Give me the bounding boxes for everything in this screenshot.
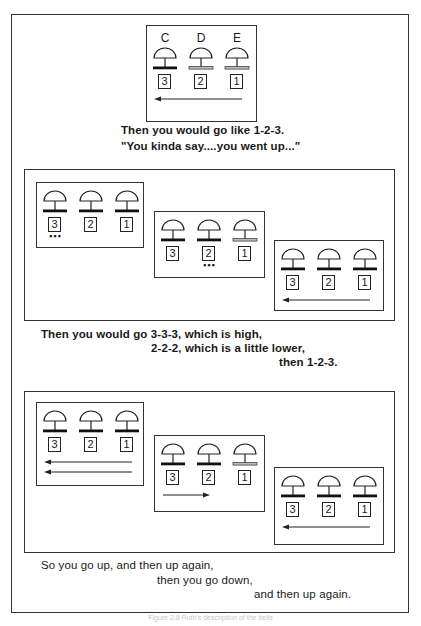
bell-number-box: 1	[358, 275, 371, 290]
bell-number-box: 2	[84, 217, 97, 232]
panel1-text-line-1: Then you would go like 1-2-3.	[121, 124, 284, 136]
bell-icon	[78, 410, 104, 436]
bell-icon	[232, 443, 258, 469]
bell-number-box: 2	[202, 246, 215, 261]
bell-icon	[316, 475, 342, 501]
panel3-text-line-2: then you go down,	[157, 574, 253, 586]
bell-number-box: 1	[230, 74, 243, 89]
repeat-dots-icon: ▪▪▪	[49, 233, 62, 239]
panel1-text-line-2: "You kinda say....you went up..."	[121, 140, 300, 152]
bell-number-box: 2	[202, 470, 215, 485]
bell-icon	[42, 190, 68, 216]
bell-number-box: 3	[48, 437, 61, 452]
bell-number-box: 1	[120, 437, 133, 452]
arrow-left-icon	[43, 458, 134, 466]
bell-icon	[316, 248, 342, 274]
bell-icon	[232, 219, 258, 245]
panel3-text-line-3: and then up again.	[254, 588, 351, 600]
bell-icon	[42, 410, 68, 436]
bell-icon	[160, 443, 186, 469]
bell-icon	[188, 47, 214, 73]
bell-icon	[280, 475, 306, 501]
arrow-left-icon	[281, 296, 372, 304]
panel2-text-line-3: then 1-2-3.	[279, 356, 338, 368]
bell-icon	[280, 248, 306, 274]
arrow-right-icon	[161, 491, 211, 499]
bell-icon	[152, 47, 178, 73]
bell-number-box: 3	[166, 246, 179, 261]
panel2-text-line-2: 2-2-2, which is a little lower,	[151, 342, 305, 354]
bell-icon	[78, 190, 104, 216]
panel3-text-line-1: So you go up, and then up again,	[41, 559, 214, 571]
bell-icon	[352, 248, 378, 274]
bell-number-box: 2	[84, 437, 97, 452]
bell-icon	[224, 47, 250, 73]
bell-number-box: 2	[322, 275, 335, 290]
panel2-text-line-1: Then you would go 3-3-3, which is high,	[41, 328, 262, 340]
bell-number-box: 3	[48, 217, 61, 232]
arrow-left-icon	[43, 468, 134, 476]
note-label: E	[226, 31, 248, 45]
bell-icon	[160, 219, 186, 245]
repeat-dots-icon: ▪▪▪	[203, 262, 216, 268]
note-label: D	[190, 31, 212, 45]
arrow-left-icon	[281, 523, 372, 531]
bell-number-box: 3	[166, 470, 179, 485]
bell-number-box: 3	[158, 74, 171, 89]
bell-icon	[114, 410, 140, 436]
bell-number-box: 2	[194, 74, 207, 89]
bell-icon	[196, 219, 222, 245]
note-label: C	[154, 31, 176, 45]
bell-icon	[114, 190, 140, 216]
bell-number-box: 2	[322, 502, 335, 517]
bell-number-box: 1	[238, 246, 251, 261]
bell-icon	[196, 443, 222, 469]
figure-caption: Figure 2.8 Ruth's description of the bel…	[0, 614, 421, 621]
bell-number-box: 1	[120, 217, 133, 232]
bell-number-box: 3	[286, 275, 299, 290]
bell-number-box: 1	[238, 470, 251, 485]
bell-icon	[352, 475, 378, 501]
bell-number-box: 3	[286, 502, 299, 517]
bell-number-box: 1	[358, 502, 371, 517]
arrow-left-icon	[153, 95, 244, 103]
